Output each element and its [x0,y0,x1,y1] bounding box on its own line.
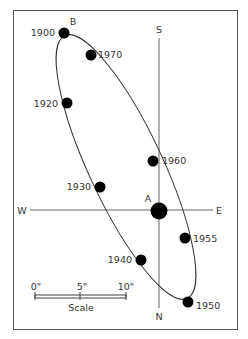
scale-tick-0: 0" [31,281,41,292]
svg-text:1940: 1940 [108,254,132,265]
svg-text:1930: 1930 [67,181,91,192]
scale-tick-10: 10" [118,281,134,292]
svg-text:1900: 1900 [31,27,55,38]
south-label: S [156,24,162,35]
scale-title: Scale [68,302,94,313]
north-label: N [155,311,162,322]
orbit-b-label: B [70,16,77,27]
scale-bar: 0" 5" 10" Scale [31,281,134,313]
position-1940: 1940 [108,254,147,266]
svg-text:1970: 1970 [98,49,122,60]
scale-tick-5: 5" [77,281,87,292]
position-1955: 1955 [180,233,218,245]
position-1900: 1900 [31,27,70,39]
position-1930: 1930 [67,181,106,193]
position-1950: 1950 [183,297,221,312]
svg-text:1920: 1920 [34,98,58,109]
position-1960: 1960 [148,155,187,167]
position-1970: 1970 [86,49,123,61]
binary-orbit-diagram: S N W E A B 1900 1970 1920 1930 1960 195… [0,0,248,339]
svg-text:1960: 1960 [162,155,186,166]
west-label: W [17,205,27,216]
position-1920: 1920 [34,98,73,110]
svg-text:1950: 1950 [196,300,220,311]
orbit-ellipse [31,20,221,314]
east-label: E [216,205,222,216]
primary-star-label: A [145,193,152,204]
svg-text:1955: 1955 [193,233,217,244]
primary-star-a [151,203,168,220]
